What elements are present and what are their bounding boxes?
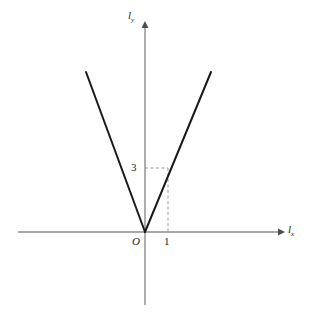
- x-axis-label-subscript: x: [291, 230, 294, 238]
- curve-right-branch: [145, 72, 211, 232]
- y-tick-label-3: 3: [131, 162, 137, 173]
- y-axis-arrowhead: [142, 21, 149, 28]
- y-axis-label-subscript: y: [131, 16, 134, 24]
- x-axis-arrowhead: [278, 228, 285, 235]
- y-axis-label: ly: [128, 10, 134, 24]
- math-figure: ly lx O 3 1: [0, 0, 309, 321]
- origin-label: O: [132, 236, 140, 247]
- curve-left-branch: [86, 72, 145, 232]
- x-tick-label-1: 1: [164, 236, 170, 247]
- x-axis-label: lx: [288, 224, 294, 238]
- coordinate-plot: [0, 0, 309, 321]
